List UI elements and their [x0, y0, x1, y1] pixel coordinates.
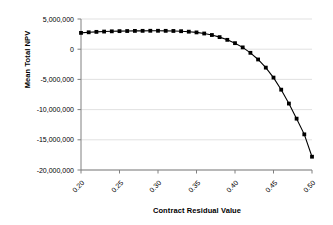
data-point: [272, 76, 276, 80]
data-point: [110, 29, 114, 33]
data-point: [118, 29, 122, 33]
data-point: [187, 30, 191, 34]
data-point: [310, 155, 314, 159]
data-point: [256, 58, 260, 62]
series-markers: [79, 29, 314, 159]
data-point: [102, 30, 106, 34]
data-point: [279, 88, 283, 92]
x-axis-title: Contract Residual Value: [80, 206, 314, 215]
data-point: [79, 31, 83, 35]
data-point: [164, 29, 168, 33]
chart-container: Mean Total NPV 5,000,0000-5,000,000-10,0…: [0, 0, 333, 225]
x-axis-tick-labels: 0.200.250.300.350.400.450.50: [0, 176, 333, 204]
series-line: [81, 31, 312, 157]
x-axis-ticks: [81, 170, 312, 174]
y-axis-ticks: [78, 19, 82, 170]
data-point: [287, 102, 291, 106]
axis-lines: [81, 19, 312, 170]
data-point: [233, 41, 237, 45]
data-point: [148, 29, 152, 33]
data-point: [179, 29, 183, 33]
data-point: [133, 29, 137, 33]
data-point: [264, 66, 268, 70]
data-point: [87, 30, 91, 34]
data-point: [202, 32, 206, 36]
data-point: [210, 33, 214, 37]
data-point: [218, 35, 222, 39]
data-point: [172, 29, 176, 33]
gridlines: [81, 19, 312, 170]
data-point: [249, 51, 253, 55]
data-point: [95, 30, 99, 34]
data-point: [302, 132, 306, 136]
data-point: [141, 29, 145, 33]
data-point: [225, 38, 229, 42]
data-point: [241, 45, 245, 49]
data-point: [156, 29, 160, 33]
data-point: [295, 117, 299, 121]
data-point: [125, 29, 129, 33]
data-point: [195, 31, 199, 35]
